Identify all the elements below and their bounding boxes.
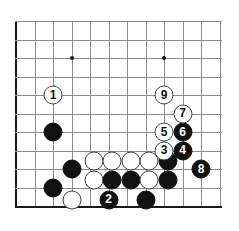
move-number-label: 3 — [161, 144, 168, 156]
move-number-label: 2 — [105, 193, 112, 205]
move-stone-1: 1 — [44, 86, 63, 105]
move-stone-7: 7 — [173, 104, 192, 123]
white-stone — [62, 190, 81, 209]
move-number-label: 9 — [161, 89, 168, 101]
grid-line-horizontal — [15, 40, 222, 41]
move-number-label: 8 — [198, 163, 205, 175]
white-stone — [84, 151, 103, 170]
move-number-label: 1 — [50, 89, 57, 101]
black-stone — [136, 190, 155, 209]
move-number-label: 5 — [161, 126, 168, 138]
move-stone-6: 6 — [173, 123, 192, 142]
move-number-label: 7 — [179, 107, 186, 119]
move-stone-5: 5 — [155, 123, 174, 142]
black-stone — [44, 123, 63, 142]
move-stone-8: 8 — [192, 160, 211, 179]
black-stone — [103, 171, 122, 190]
white-stone — [84, 171, 103, 190]
go-board-diagram: 123456789 — [0, 0, 239, 231]
move-stone-2: 2 — [99, 190, 118, 209]
move-number-label: 6 — [179, 126, 186, 138]
grid-line-vertical — [15, 21, 17, 208]
grid-line-horizontal — [15, 21, 222, 22]
diagram-caption — [8, 221, 48, 229]
white-stone — [140, 171, 159, 190]
star-point — [70, 56, 74, 60]
move-number-label: 4 — [179, 144, 186, 156]
move-stone-4: 4 — [173, 141, 192, 160]
black-stone — [62, 160, 81, 179]
move-stone-9: 9 — [155, 86, 174, 105]
black-stone — [44, 178, 63, 197]
black-stone — [121, 171, 140, 190]
star-point — [162, 56, 166, 60]
white-stone — [103, 151, 122, 170]
grid-line-horizontal — [15, 58, 222, 59]
grid-line-horizontal — [15, 77, 222, 78]
white-stone — [121, 151, 140, 170]
move-stone-3: 3 — [155, 141, 174, 160]
black-stone — [158, 171, 177, 190]
grid-line-horizontal — [15, 206, 222, 208]
